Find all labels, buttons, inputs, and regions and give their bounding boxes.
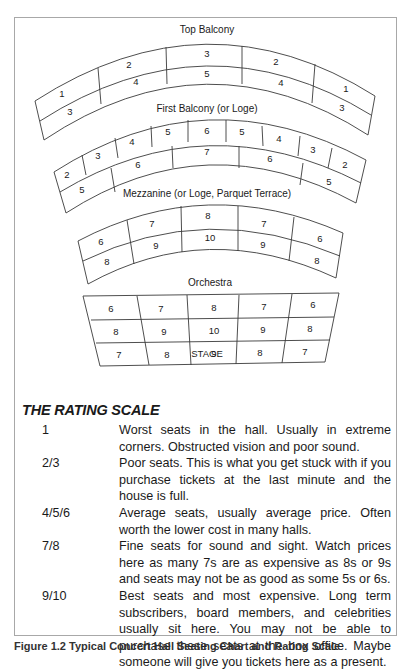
seat-rating: 1 <box>59 88 64 99</box>
rating-item: 9/10 Best seats and most expensive. Long… <box>22 588 392 671</box>
top-balcony-section: Top Balcony 1 2 3 2 1 3 4 5 4 3 <box>35 24 375 140</box>
seat-rating: 4 <box>133 76 138 87</box>
seat-rating: 3 <box>310 144 315 155</box>
seat-rating: 8 <box>205 210 210 221</box>
seat-rating: 2 <box>64 169 69 180</box>
seat-rating: 2 <box>273 56 278 67</box>
seat-rating: 3 <box>67 106 72 117</box>
seat-rating: 9 <box>260 324 265 335</box>
seat-rating: 7 <box>149 218 154 229</box>
seat-rating: 8 <box>307 323 312 334</box>
seat-rating: 6 <box>310 299 315 310</box>
seat-rating: 5 <box>204 68 209 79</box>
rating-value: 7/8 <box>22 538 119 588</box>
stage-label: STAGE <box>0 348 414 359</box>
seat-rating: 6 <box>204 125 209 136</box>
seat-rating: 5 <box>165 126 170 137</box>
seat-rating: 10 <box>205 232 216 243</box>
section-label-mezzanine: Mezzanine (or Loge, Parquet Terrace) <box>123 188 291 199</box>
seat-rating: 3 <box>339 102 344 113</box>
seat-rating: 7 <box>158 303 163 314</box>
seat-rating: 10 <box>209 325 220 336</box>
section-label-orchestra: Orchestra <box>188 277 232 288</box>
section-label-first-balcony: First Balcony (or Loge) <box>156 103 257 114</box>
rating-description: Worst seats in the hall. Usually in extr… <box>119 422 391 455</box>
seat-rating: 5 <box>326 176 331 187</box>
seat-rating: 8 <box>211 302 216 313</box>
seat-rating: 9 <box>161 326 166 337</box>
rating-item: 1 Worst seats in the hall. Usually in ex… <box>22 422 392 455</box>
rating-value: 4/5/6 <box>22 505 119 538</box>
rating-item: 4/5/6 Average seats, usually average pri… <box>22 505 392 538</box>
rating-scale-list: 1 Worst seats in the hall. Usually in ex… <box>22 422 392 671</box>
seat-rating: 3 <box>95 150 100 161</box>
rating-item: 7/8 Fine seats for sound and sight. Watc… <box>22 538 392 588</box>
rating-value: 2/3 <box>22 455 119 505</box>
seat-rating: 8 <box>113 326 118 337</box>
seat-rating: 8 <box>104 256 109 267</box>
rating-description: Poor seats. This is what you get stuck w… <box>119 455 391 505</box>
seat-rating: 3 <box>204 48 209 59</box>
seat-rating: 2 <box>126 59 131 70</box>
seat-rating: 7 <box>204 146 209 157</box>
figure-caption: Figure 1.2 Typical Concert Hall Seating … <box>14 640 340 652</box>
seat-rating: 7 <box>261 218 266 229</box>
mezzanine-section: Mezzanine (or Loge, Parquet Terrace) 6 7… <box>78 188 343 284</box>
seat-rating: 1 <box>343 83 348 94</box>
seat-rating: 6 <box>317 233 322 244</box>
seat-rating: 7 <box>261 301 266 312</box>
seat-rating: 8 <box>314 255 319 266</box>
rating-value: 1 <box>22 422 119 455</box>
seat-rating: 6 <box>267 153 272 164</box>
rating-value: 9/10 <box>22 588 119 671</box>
seat-rating: 9 <box>260 239 265 250</box>
section-label-top-balcony: Top Balcony <box>180 24 234 35</box>
seat-rating: 4 <box>278 77 283 88</box>
seat-rating: 4 <box>276 133 281 144</box>
seat-rating: 6 <box>135 159 140 170</box>
rating-item: 2/3 Poor seats. This is what you get stu… <box>22 455 392 505</box>
seating-chart: Top Balcony 1 2 3 2 1 3 4 5 4 3 First Ba… <box>0 0 414 380</box>
rating-description: Average seats, usually average price. Of… <box>119 505 391 538</box>
rating-description: Best seats and most expensive. Long term… <box>119 588 391 671</box>
seat-rating: 5 <box>239 126 244 137</box>
seat-rating: 2 <box>342 159 347 170</box>
seat-rating: 5 <box>79 184 84 195</box>
seat-rating: 6 <box>108 303 113 314</box>
seat-rating: 6 <box>98 236 103 247</box>
seat-rating: 9 <box>153 240 158 251</box>
rating-scale-heading: THE RATING SCALE <box>22 402 160 418</box>
rating-description: Fine seats for sound and sight. Watch pr… <box>119 538 391 588</box>
seat-rating: 4 <box>129 136 134 147</box>
